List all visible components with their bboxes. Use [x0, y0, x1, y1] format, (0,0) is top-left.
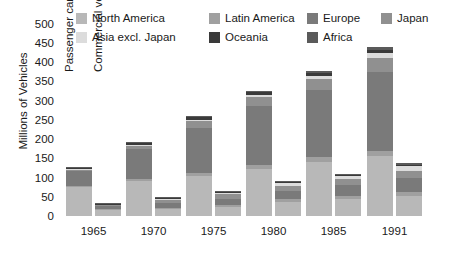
segment-africa — [306, 71, 332, 73]
segment-asia-excl-japan — [335, 176, 361, 179]
segment-oceania — [215, 192, 241, 193]
y-tick-200: 200 — [24, 133, 54, 145]
annotation-passenger-cars: Passenger cars — [63, 0, 75, 72]
bar-1975-commercial-vehicles[interactable] — [215, 191, 241, 216]
y-tick-150: 150 — [24, 152, 54, 164]
y-tick-50: 50 — [24, 191, 54, 203]
bar-1985-commercial-vehicles[interactable] — [335, 174, 361, 216]
x-tick-1980: 1980 — [261, 225, 287, 237]
segment-asia-excl-japan — [95, 204, 121, 205]
segment-asia-excl-japan — [126, 145, 152, 146]
bar-group-1991 — [367, 215, 422, 216]
segment-europe — [95, 206, 121, 209]
segment-north-america — [126, 181, 152, 216]
segment-japan — [215, 194, 241, 198]
segment-europe — [396, 178, 422, 191]
bar-group-1965 — [66, 215, 121, 216]
segment-japan — [155, 200, 181, 203]
bar-1980-commercial-vehicles[interactable] — [275, 181, 301, 216]
y-tick-300: 300 — [24, 95, 54, 107]
segment-oceania — [396, 165, 422, 167]
y-axis-tick-labels: 500450400350300250200150100500 — [22, 0, 54, 255]
segment-europe — [335, 185, 361, 196]
segment-africa — [66, 167, 92, 168]
bar-group-1970 — [126, 215, 181, 216]
bar-1975-passenger-cars[interactable] — [186, 116, 212, 216]
segment-japan — [66, 170, 92, 171]
segment-africa — [186, 116, 212, 118]
chart-root: North AmericaLatin AmericaEuropeJapan As… — [0, 0, 457, 255]
segment-japan — [95, 205, 121, 207]
segment-oceania — [66, 168, 92, 170]
segment-japan — [367, 58, 393, 72]
x-tick-1970: 1970 — [141, 225, 167, 237]
segment-europe — [126, 149, 152, 179]
segment-japan — [396, 171, 422, 179]
segment-oceania — [155, 198, 181, 199]
segment-latin-america — [126, 179, 152, 181]
segment-north-america — [275, 202, 301, 216]
segment-north-america — [95, 210, 121, 216]
bar-group-1975 — [186, 215, 241, 216]
segment-europe — [306, 90, 332, 157]
segment-europe — [215, 199, 241, 205]
segment-asia-excl-japan — [66, 169, 92, 170]
bar-1965-passenger-cars[interactable] — [66, 167, 92, 216]
segment-japan — [306, 79, 332, 89]
segment-africa — [155, 197, 181, 198]
y-tick-250: 250 — [24, 114, 54, 126]
bar-1970-passenger-cars[interactable] — [126, 142, 152, 216]
x-tick-1991: 1991 — [382, 225, 408, 237]
segment-japan — [126, 146, 152, 149]
segment-latin-america — [396, 192, 422, 196]
segment-north-america — [246, 169, 272, 216]
bar-1991-passenger-cars[interactable] — [367, 47, 393, 216]
bar-1980-passenger-cars[interactable] — [246, 91, 272, 217]
segment-africa — [215, 191, 241, 192]
segment-oceania — [186, 117, 212, 119]
segment-asia-excl-japan — [246, 95, 272, 97]
segment-north-america — [66, 187, 92, 216]
segment-africa — [367, 47, 393, 50]
x-tick-1965: 1965 — [81, 225, 107, 237]
segment-north-america — [367, 156, 393, 216]
y-tick-0: 0 — [24, 210, 54, 222]
segment-latin-america — [275, 199, 301, 202]
segment-oceania — [275, 182, 301, 183]
segment-asia-excl-japan — [396, 166, 422, 170]
segment-africa — [246, 91, 272, 93]
segment-latin-america — [306, 157, 332, 162]
segment-north-america — [306, 162, 332, 216]
segment-latin-america — [215, 205, 241, 207]
segment-europe — [66, 171, 92, 186]
y-tick-450: 450 — [24, 37, 54, 49]
bar-group-1985 — [306, 215, 361, 216]
segment-europe — [246, 106, 272, 165]
y-tick-350: 350 — [24, 75, 54, 87]
plot-area: 196519701975198019851991 Passenger cars … — [60, 0, 457, 255]
y-tick-400: 400 — [24, 56, 54, 68]
segment-north-america — [186, 176, 212, 216]
segment-japan — [246, 97, 272, 106]
segment-oceania — [367, 50, 393, 53]
segment-africa — [335, 174, 361, 175]
segment-north-america — [155, 209, 181, 216]
segment-asia-excl-japan — [186, 120, 212, 122]
segment-asia-excl-japan — [155, 199, 181, 200]
segment-latin-america — [95, 209, 121, 210]
segment-japan — [335, 179, 361, 185]
segment-north-america — [396, 196, 422, 216]
segment-africa — [275, 181, 301, 182]
segment-oceania — [335, 175, 361, 176]
bar-1991-commercial-vehicles[interactable] — [396, 163, 422, 216]
segment-africa — [126, 142, 152, 143]
segment-asia-excl-japan — [367, 53, 393, 58]
segment-europe — [155, 203, 181, 208]
bar-1985-passenger-cars[interactable] — [306, 71, 332, 216]
segment-africa — [396, 163, 422, 165]
bar-1965-commercial-vehicles[interactable] — [95, 203, 121, 216]
segment-north-america — [335, 199, 361, 216]
segment-latin-america — [335, 196, 361, 199]
bar-1970-commercial-vehicles[interactable] — [155, 197, 181, 216]
segment-latin-america — [186, 173, 212, 176]
